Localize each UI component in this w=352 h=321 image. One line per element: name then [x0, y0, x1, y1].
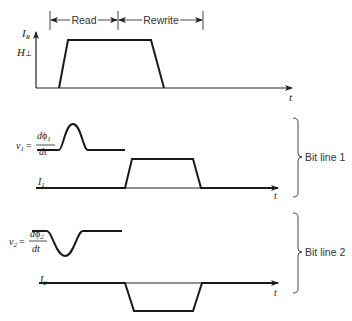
ir-plot: IR H⊥ t: [16, 27, 293, 103]
v1-numerator: dϕ1: [37, 130, 51, 143]
ir-pulse: [59, 40, 164, 88]
ir-axis-label: IR: [21, 27, 31, 41]
v2-denominator: dt: [32, 243, 40, 254]
phase-rewrite-label: Rewrite: [143, 14, 179, 26]
bit-line-2-group: v2= dϕ2 dt I2 t Bit line 2: [9, 213, 345, 311]
i1-pulse: [36, 159, 278, 188]
ir-t-label: t: [289, 91, 293, 103]
phase-read-label: Read: [71, 14, 96, 26]
bit-line-2-bracket: [293, 213, 302, 293]
v2-label: v2=: [9, 236, 25, 249]
bit-line-1-bracket: [293, 118, 302, 197]
phase-markers: Read Rewrite: [50, 11, 203, 30]
v1-label: v1=: [16, 140, 32, 153]
h-threshold-label: H⊥: [16, 46, 32, 58]
i2-label: I2: [39, 274, 47, 287]
v2-numerator: dϕ2: [30, 228, 44, 241]
v1-denominator: dt: [39, 146, 47, 157]
v2-waveform: [32, 231, 122, 256]
bit-line-1-group: v1= dϕ1 dt I1 t Bit line 1: [16, 118, 345, 201]
i1-t-label: t: [274, 190, 277, 201]
bit-line-2-label: Bit line 2: [305, 246, 345, 258]
bit-line-1-label: Bit line 1: [305, 151, 345, 163]
i2-t-label: t: [274, 287, 277, 298]
timing-diagram: Read Rewrite IR H⊥ t v1= dϕ1 dt I1: [0, 0, 352, 321]
i2-pulse: [39, 283, 278, 311]
